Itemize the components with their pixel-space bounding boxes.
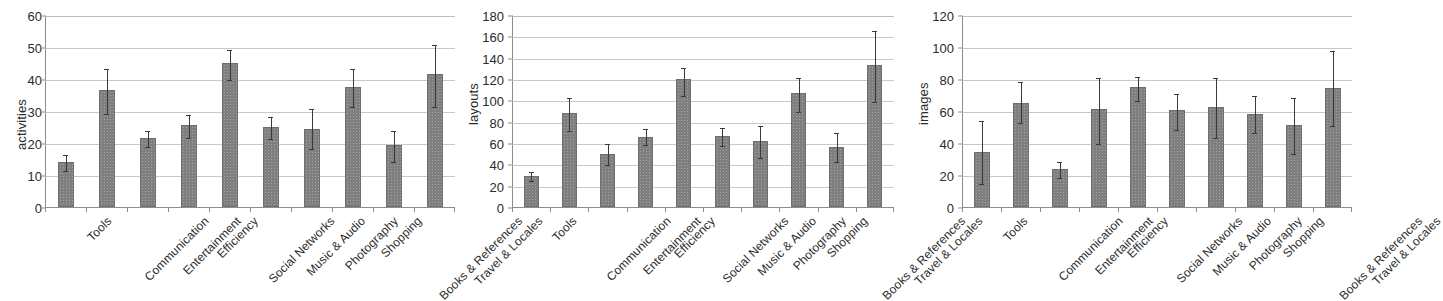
x-tick-mark [1001,207,1002,212]
error-bar-cap [1291,154,1296,155]
error-bar-cap [1174,94,1179,95]
error-bar-cap [1330,51,1335,52]
error-bar-cap [979,121,984,122]
y-tick-mark [958,80,963,81]
x-tick-mark [1235,207,1236,212]
y-tick-label: 80 [940,74,954,87]
y-tick-label: 120 [932,10,954,23]
error-bar-cap [1135,77,1140,78]
x-tick-mark [1313,207,1314,212]
error-bar [1138,77,1139,101]
y-tick-label: 40 [940,138,954,151]
error-bar-cap [1018,82,1023,83]
y-tick-mark [958,176,963,177]
x-tick-mark [1157,207,1158,212]
x-tick-label: Tools [1000,214,1030,244]
x-tick-mark [1040,207,1041,212]
x-tick-mark [962,207,963,212]
error-bar [1099,78,1100,144]
y-tick-label: 60 [940,106,954,119]
error-bar [982,121,983,184]
error-bar-cap [1330,126,1335,127]
gridline [962,48,1352,49]
plot-area [962,16,1352,208]
error-bar [1333,51,1334,126]
y-tick-label: 0 [947,202,954,215]
error-bar-cap [1252,133,1257,134]
error-bar [1255,96,1256,133]
y-tick-mark [958,144,963,145]
error-bar [1294,98,1295,154]
error-bar [1060,162,1061,177]
error-bar-cap [1135,101,1140,102]
x-tick-mark [1351,207,1352,212]
error-bar-cap [1096,144,1101,145]
x-tick-mark [1196,207,1197,212]
error-bar-cap [1057,162,1062,163]
x-tick-mark [1274,207,1275,212]
error-bar-cap [1057,178,1062,179]
error-bar-cap [1096,78,1101,79]
error-bar-cap [1018,123,1023,124]
bar [1130,87,1146,207]
x-tick-mark [1118,207,1119,212]
y-tick-mark [958,48,963,49]
error-bar-cap [979,184,984,185]
gridline [962,16,1352,17]
error-bar [1177,94,1178,129]
error-bar-cap [1252,96,1257,97]
error-bar-cap [1213,78,1218,79]
y-tick-mark [958,16,963,17]
error-bar-cap [1291,98,1296,99]
y-tick-labels: 020406080100120 [918,0,954,301]
error-bar [1216,78,1217,137]
error-bar-cap [1174,130,1179,131]
x-tick-label: Books & References [1336,214,1425,301]
y-tick-label: 20 [940,170,954,183]
error-bar [1021,82,1022,124]
x-tick-mark [1079,207,1080,212]
y-tick-label: 100 [932,42,954,55]
error-bar-cap [1213,138,1218,139]
y-tick-mark [958,112,963,113]
